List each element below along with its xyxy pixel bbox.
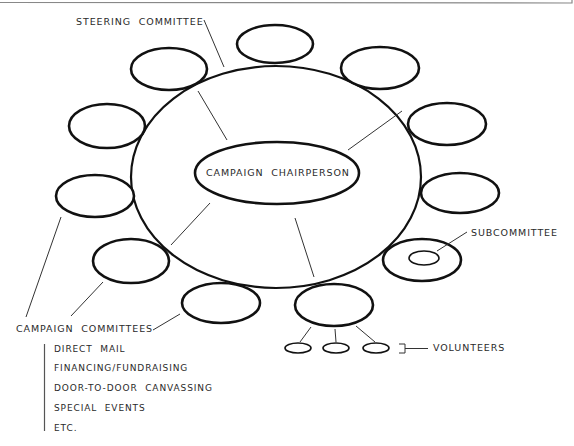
committee-ellipse-bottom-left	[182, 283, 260, 323]
volunteer-ellipse-3	[363, 343, 389, 353]
campaign-organization-diagram	[0, 0, 574, 446]
volunteers-label: VOLUNTEERS	[433, 342, 505, 354]
volunteer-ellipse-2	[323, 343, 349, 353]
committee-ellipse-upper-right	[341, 47, 419, 89]
connector-line	[356, 326, 375, 342]
list-item: DIRECT MAIL	[54, 343, 125, 355]
connector-line	[171, 203, 210, 245]
chairperson-label: CAMPAIGN CHAIRPERSON	[206, 167, 350, 179]
volunteers-bracket	[399, 344, 428, 353]
volunteer-ellipses	[285, 343, 389, 353]
connector-line	[300, 327, 311, 342]
leader-line-steering	[204, 20, 224, 67]
committee-ellipse-subcommittee	[383, 239, 461, 281]
leader-line-committees	[26, 217, 61, 317]
steering-committee-label: STEERING COMMITTEE	[76, 16, 204, 28]
committee-ellipse-right-2	[421, 173, 499, 213]
leader-line-committees	[153, 314, 180, 330]
leader-line-committees	[71, 282, 103, 316]
list-item: DOOR-TO-DOOR CANVASSING	[54, 382, 213, 394]
connector-line	[295, 218, 314, 277]
committee-ellipse-left-2	[56, 175, 134, 217]
committee-ellipse-bottom	[295, 284, 373, 326]
committee-ellipse-top	[237, 25, 313, 63]
committee-ellipse-upper-left	[131, 48, 207, 90]
subcommittee-label: SUBCOMMITTEE	[471, 227, 558, 239]
volunteer-ellipse-1	[285, 343, 311, 353]
connector-line	[198, 91, 227, 140]
campaign-committees-label: CAMPAIGN COMMITTEES	[16, 323, 153, 335]
connector-line	[348, 111, 402, 150]
connector-line	[335, 329, 336, 342]
top-border	[0, 0, 572, 3]
committee-ellipse-left-3	[93, 239, 169, 283]
list-item: FINANCING/FUNDRAISING	[54, 362, 188, 374]
list-item: SPECIAL EVENTS	[54, 402, 146, 414]
list-item: ETC.	[54, 422, 77, 434]
committee-ellipse-right-1	[408, 103, 486, 145]
committee-ellipse-left-1	[69, 104, 145, 148]
